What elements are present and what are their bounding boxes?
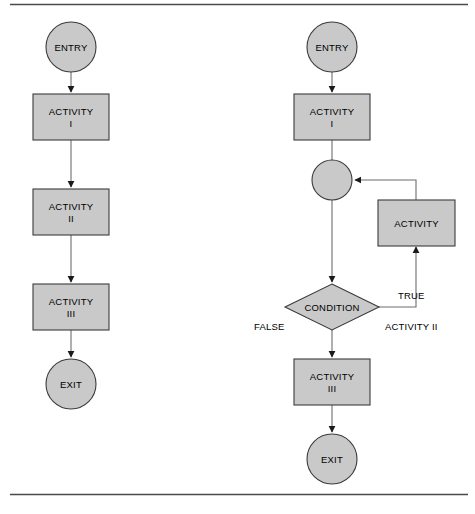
merge-junction-circle xyxy=(312,160,352,200)
loop-activity-label: ACTIVITY xyxy=(394,218,439,229)
left-node-activity1: ACTIVITY I xyxy=(33,94,109,140)
flowchart-canvas: ENTRY ACTIVITY I ACTIVITY II ACTIVITY II… xyxy=(0,0,475,514)
left-node-activity2: ACTIVITY II xyxy=(33,189,109,235)
connector-loop-activity-to-merge xyxy=(355,180,416,200)
activity3-label-line1: ACTIVITY xyxy=(49,296,94,307)
diagram-right-conditional-loop-flow: ENTRY ACTIVITY I ACTIVITY CONDITION xyxy=(254,22,455,484)
right-node-activity1: ACTIVITY I xyxy=(294,94,370,140)
entry-label: ENTRY xyxy=(54,42,87,53)
diagram-left-sequential-flow: ENTRY ACTIVITY I ACTIVITY II ACTIVITY II… xyxy=(33,22,109,409)
right-node-entry: ENTRY xyxy=(307,22,357,72)
false-branch-label: FALSE xyxy=(254,321,285,332)
exit-label: EXIT xyxy=(321,454,343,465)
figure-root: ENTRY ACTIVITY I ACTIVITY II ACTIVITY II… xyxy=(0,0,475,514)
activity1-label-line1: ACTIVITY xyxy=(310,106,355,117)
activity3-label-line1: ACTIVITY xyxy=(310,371,355,382)
right-node-exit: EXIT xyxy=(307,434,357,484)
entry-label: ENTRY xyxy=(315,42,348,53)
right-node-activity3: ACTIVITY III xyxy=(294,359,370,405)
right-node-loop-activity: ACTIVITY xyxy=(378,200,455,246)
activity1-label-line2: I xyxy=(70,118,73,129)
activity2-label-line2: II xyxy=(68,213,74,224)
right-node-condition: CONDITION xyxy=(285,284,379,330)
left-node-exit: EXIT xyxy=(46,359,96,409)
activity1-label-line2: I xyxy=(331,118,334,129)
activity2-label-line1: ACTIVITY xyxy=(49,201,94,212)
condition-label: CONDITION xyxy=(304,302,359,313)
left-node-activity3: ACTIVITY III xyxy=(33,284,109,330)
right-node-merge-junction xyxy=(312,160,352,200)
activity1-label-line1: ACTIVITY xyxy=(49,106,94,117)
activity3-label-line2: III xyxy=(328,383,337,394)
loop-caption-label: ACTIVITY II xyxy=(385,321,438,332)
left-node-entry: ENTRY xyxy=(46,22,96,72)
true-branch-label: TRUE xyxy=(398,290,425,301)
exit-label: EXIT xyxy=(60,379,82,390)
activity3-label-line2: III xyxy=(67,308,76,319)
